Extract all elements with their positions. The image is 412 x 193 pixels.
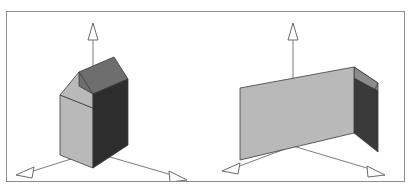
- right-panel: [222, 23, 385, 177]
- left-house-solid: [60, 57, 128, 168]
- figure-canvas: [7, 12, 404, 181]
- figure-frame: [6, 11, 405, 182]
- figure-screenshot: [0, 0, 412, 193]
- triangle-up-icon: [88, 23, 98, 40]
- right-end-face: [354, 78, 378, 152]
- triangle-left-icon: [222, 163, 240, 174]
- right-house-solid: [240, 67, 378, 160]
- triangle-right-icon: [367, 166, 385, 177]
- front-wall-face: [93, 79, 128, 168]
- triangle-right-icon: [169, 171, 187, 181]
- long-wall-face: [240, 67, 354, 160]
- triangle-up-icon: [288, 23, 298, 40]
- triangle-left-icon: [16, 167, 34, 178]
- y-axis-right-line: [293, 146, 370, 169]
- left-panel: [16, 23, 187, 181]
